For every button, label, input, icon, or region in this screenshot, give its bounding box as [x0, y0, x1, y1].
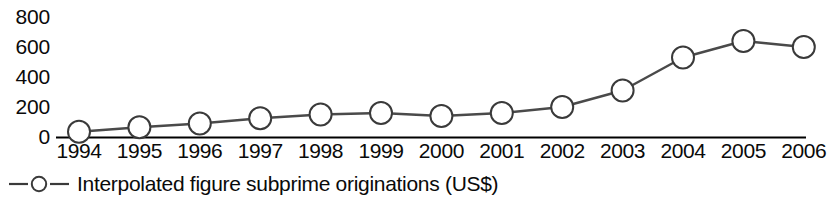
legend-line-marker-icon: [8, 175, 70, 193]
x-tick-label-2003: 2003: [592, 140, 654, 161]
data-point-2001: [491, 102, 513, 124]
data-point-2003: [612, 80, 634, 102]
data-point-1997: [249, 107, 271, 129]
x-tick-label-1998: 1998: [290, 140, 352, 161]
x-tick-label-2000: 2000: [410, 140, 472, 161]
y-tick-label-800: 800: [0, 6, 50, 27]
x-tick-label-1996: 1996: [169, 140, 231, 161]
data-point-2006: [793, 36, 815, 58]
data-point-2002: [551, 96, 573, 118]
x-tick-label-1994: 1994: [48, 140, 110, 161]
data-point-2004: [672, 47, 694, 69]
x-tick-label-2005: 2005: [712, 140, 774, 161]
data-point-1996: [189, 113, 211, 135]
x-tick-label-2004: 2004: [652, 140, 714, 161]
data-point-1995: [128, 116, 150, 138]
chart-figure: 0200400600800 19941995199619971998199920…: [0, 0, 837, 214]
data-point-1999: [370, 102, 392, 124]
x-tick-label-1997: 1997: [229, 140, 291, 161]
y-tick-label-200: 200: [0, 96, 50, 117]
y-tick-label-400: 400: [0, 66, 50, 87]
chart-legend: Interpolated figure subprime origination…: [8, 173, 498, 194]
x-tick-label-2001: 2001: [471, 140, 533, 161]
data-point-2000: [430, 105, 452, 127]
x-tick-label-1999: 1999: [350, 140, 412, 161]
x-tick-label-2002: 2002: [531, 140, 593, 161]
y-tick-label-0: 0: [0, 126, 50, 147]
x-tick-label-1995: 1995: [108, 140, 170, 161]
data-point-1998: [310, 104, 332, 126]
legend-series-label: Interpolated figure subprime origination…: [77, 173, 498, 194]
y-tick-label-600: 600: [0, 36, 50, 57]
data-point-2005: [732, 30, 754, 52]
x-tick-label-2006: 2006: [773, 140, 835, 161]
